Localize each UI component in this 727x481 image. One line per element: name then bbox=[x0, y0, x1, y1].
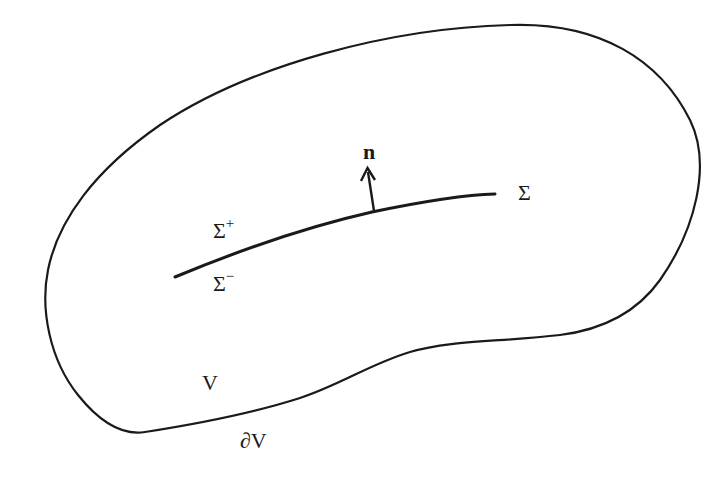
surface-minus-label: Σ− bbox=[213, 273, 234, 295]
boundary-label: ∂V bbox=[240, 430, 267, 452]
surface-plus-sup: + bbox=[226, 215, 234, 231]
surface-minus-sup: − bbox=[226, 268, 234, 284]
normal-label: n bbox=[363, 141, 375, 163]
volume-label: V bbox=[202, 372, 218, 394]
surface-label: Σ bbox=[518, 182, 531, 204]
surface-plus-label: Σ+ bbox=[213, 220, 234, 242]
boundary-curve bbox=[45, 25, 700, 433]
normal-arrow bbox=[361, 168, 375, 211]
surface-plus-base: Σ bbox=[213, 218, 226, 243]
diagram-canvas bbox=[0, 0, 727, 481]
surface-minus-base: Σ bbox=[213, 271, 226, 296]
